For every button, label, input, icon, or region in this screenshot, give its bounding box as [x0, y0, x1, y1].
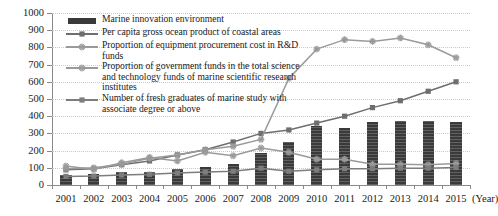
- data-point-marker: [258, 166, 263, 171]
- x-tick-mark: [80, 185, 81, 189]
- legend-key-star-marker-icon: [66, 41, 98, 53]
- data-point-marker: [397, 35, 404, 42]
- y-tick-label: 1000: [23, 8, 44, 18]
- data-point-marker: [230, 152, 237, 159]
- y-tick-label: 400: [28, 111, 44, 121]
- y-tick-label: 200: [28, 146, 44, 156]
- data-point-marker: [79, 44, 86, 51]
- data-point-marker: [453, 54, 460, 61]
- x-tick-mark: [386, 185, 387, 189]
- legend-label: Per capita gross ocean product of coasta…: [102, 27, 281, 38]
- data-point-marker: [286, 169, 291, 174]
- data-point-marker: [147, 172, 152, 177]
- x-tick-mark: [219, 185, 220, 189]
- data-point-marker: [369, 38, 376, 45]
- data-point-marker: [314, 120, 319, 125]
- data-point-marker: [63, 174, 68, 179]
- y-tick-label: 600: [28, 77, 44, 87]
- data-point-marker: [453, 79, 458, 84]
- data-point-marker: [174, 158, 181, 165]
- x-tick-mark: [108, 185, 109, 189]
- x-tick-mark: [52, 185, 53, 189]
- x-tick-mark: [247, 185, 248, 189]
- data-point-marker: [342, 114, 347, 119]
- data-point-marker: [231, 169, 236, 174]
- x-tick-mark: [136, 185, 137, 189]
- x-tick-mark: [303, 185, 304, 189]
- x-tick-mark: [191, 185, 192, 189]
- legend-key-asterisk-marker-icon: [66, 62, 98, 74]
- x-tick-mark: [163, 185, 164, 189]
- data-point-marker: [258, 136, 265, 143]
- data-point-marker: [258, 145, 265, 152]
- legend-label: Proportion of equipment procurement cost…: [102, 40, 314, 61]
- x-tick-mark: [331, 185, 332, 189]
- chart-legend: Marine innovation environmentPer capita …: [66, 14, 316, 114]
- data-point-marker: [370, 105, 375, 110]
- legend-item: Number of fresh graduates of marine stud…: [66, 93, 316, 114]
- legend-item: Proportion of equipment procurement cost…: [66, 40, 316, 61]
- data-point-marker: [342, 166, 347, 171]
- y-tick-label: 900: [28, 25, 44, 35]
- y-tick-label: 0: [39, 180, 44, 190]
- legend-key-bar-icon: [66, 15, 98, 27]
- data-point-marker: [79, 31, 84, 36]
- x-axis-tick-labels: 2001200220032004200520062007200820092010…: [0, 193, 482, 213]
- x-tick-mark: [275, 185, 276, 189]
- data-point-marker: [91, 173, 96, 178]
- data-point-marker: [398, 98, 403, 103]
- data-point-marker: [79, 97, 84, 102]
- data-point-marker: [426, 166, 431, 171]
- y-tick-label: 100: [28, 163, 44, 173]
- y-tick-label: 800: [28, 42, 44, 52]
- data-point-marker: [341, 156, 348, 163]
- data-point-marker: [286, 127, 291, 132]
- data-point-marker: [175, 170, 180, 175]
- legend-label: Number of fresh graduates of marine stud…: [102, 93, 314, 114]
- legend-label: Marine innovation environment: [102, 14, 224, 25]
- legend-key-square-marker-icon: [66, 28, 98, 40]
- x-axis-title: (Year): [472, 193, 498, 204]
- x-tick-mark: [470, 185, 471, 189]
- y-tick-label: 500: [28, 94, 44, 104]
- data-point-marker: [398, 166, 403, 171]
- data-point-marker: [313, 156, 320, 163]
- data-point-marker: [453, 165, 458, 170]
- data-point-marker: [426, 89, 431, 94]
- x-tick-mark: [359, 185, 360, 189]
- data-point-marker: [79, 65, 86, 72]
- legend-label: Proportion of government funds in the to…: [102, 61, 314, 93]
- y-axis-tick-labels: 01002003004005006007008009001000: [0, 0, 48, 216]
- data-point-marker: [314, 167, 319, 172]
- data-point-marker: [285, 149, 292, 156]
- data-point-marker: [119, 172, 124, 177]
- x-tick-mark: [442, 185, 443, 189]
- x-tick-label: 2015: [440, 193, 472, 204]
- legend-item: Proportion of government funds in the to…: [66, 61, 316, 93]
- y-tick-label: 700: [28, 60, 44, 70]
- data-point-marker: [425, 41, 432, 48]
- x-axis-ticks: [52, 185, 471, 191]
- data-point-marker: [370, 166, 375, 171]
- y-tick-label: 300: [28, 128, 44, 138]
- x-tick-mark: [414, 185, 415, 189]
- data-point-marker: [341, 36, 348, 43]
- legend-key-square-marker-icon: [66, 94, 98, 106]
- data-point-marker: [203, 170, 208, 175]
